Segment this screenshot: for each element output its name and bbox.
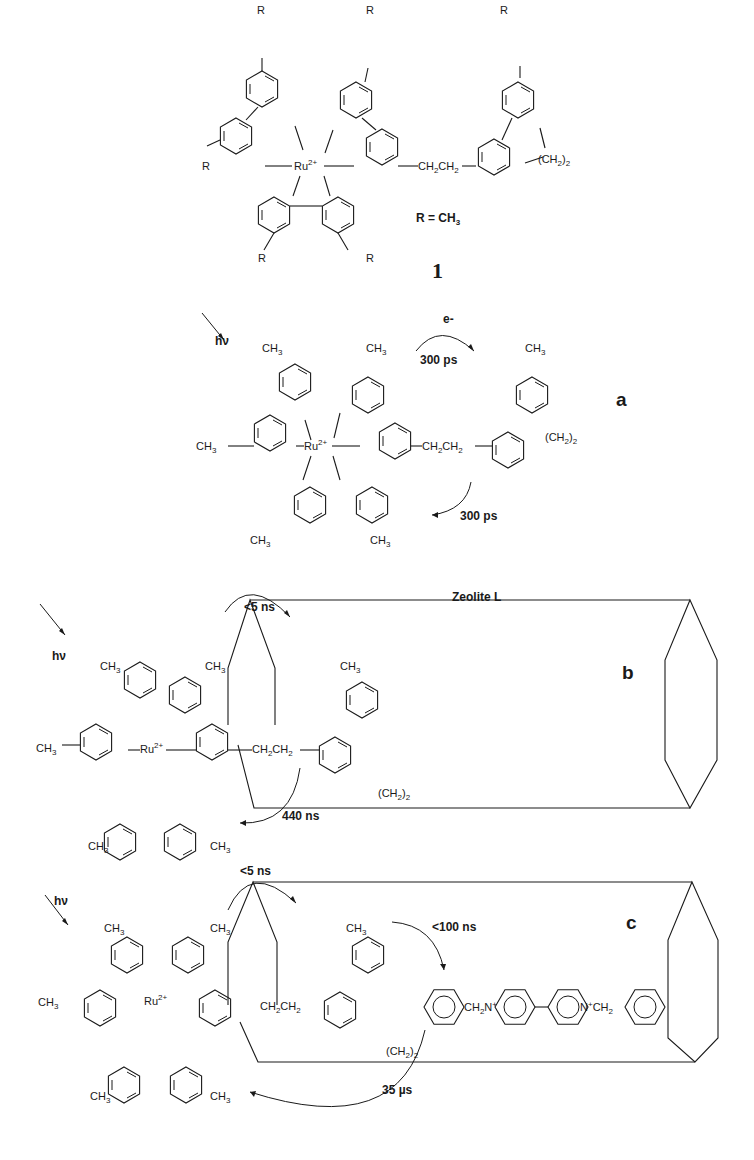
- hv-label: hν: [215, 334, 229, 348]
- svg-text:CH2CH2: CH2CH2: [418, 160, 459, 175]
- svg-text:(CH2)2: (CH2)2: [538, 153, 571, 168]
- svg-text:CH3: CH3: [104, 922, 125, 937]
- panel-b-labels: hν Zeolite L <5 ns 440 ns b CH3 CH3 CH3 …: [36, 590, 634, 855]
- r-label: R: [257, 4, 265, 16]
- svg-text:CH3: CH3: [205, 660, 226, 675]
- svg-text:(CH2)2: (CH2)2: [386, 1045, 419, 1060]
- svg-text:N+CH2: N+CH2: [580, 1000, 614, 1016]
- back-time: 35 µs: [382, 1083, 413, 1097]
- back-time: 300 ps: [460, 509, 498, 523]
- electron-label: e-: [443, 312, 454, 326]
- svg-text:Ru2+: Ru2+: [144, 993, 168, 1007]
- svg-text:(CH2)2: (CH2)2: [378, 787, 411, 802]
- back-time: 440 ns: [282, 809, 320, 823]
- zeolite-label: Zeolite L: [452, 590, 501, 604]
- svg-text:CH3: CH3: [210, 922, 231, 937]
- svg-text:CH3: CH3: [36, 742, 57, 757]
- r-label: R: [258, 252, 266, 264]
- diagram-canvas: R R R R R R Ru2+ CH2CH2 (CH2)2 R = CH3 1: [0, 0, 754, 1160]
- svg-text:CH3: CH3: [525, 342, 546, 357]
- svg-text:CH3: CH3: [250, 534, 271, 549]
- r-label: R: [202, 160, 210, 172]
- structure-1: [207, 58, 545, 250]
- hv-label: hν: [52, 649, 66, 663]
- svg-text:CH3: CH3: [210, 1090, 231, 1105]
- svg-text:CH3: CH3: [88, 840, 109, 855]
- svg-text:CH3: CH3: [196, 440, 217, 455]
- svg-text:CH2CH2: CH2CH2: [422, 440, 463, 455]
- svg-text:Ru2+: Ru2+: [140, 741, 164, 755]
- panel-label-a: a: [616, 389, 627, 410]
- r-label: R: [366, 4, 374, 16]
- transfer-time: <100 ns: [432, 920, 477, 934]
- svg-text:CH3: CH3: [366, 342, 387, 357]
- forward-time: <5 ns: [244, 600, 275, 614]
- svg-text:Ru2+: Ru2+: [304, 438, 328, 452]
- svg-text:CH2N+: CH2N+: [464, 1000, 497, 1016]
- hv-label: hν: [54, 894, 68, 908]
- compound-number: 1: [432, 258, 443, 283]
- panel-a-labels: hν e- 300 ps 300 ps a CH3 CH3 CH3 CH3 CH…: [196, 312, 627, 549]
- svg-text:CH3: CH3: [346, 922, 367, 937]
- svg-text:Ru2+: Ru2+: [294, 158, 318, 172]
- panel-b: [40, 595, 717, 860]
- svg-text:CH3: CH3: [210, 840, 231, 855]
- svg-text:CH3: CH3: [262, 342, 283, 357]
- svg-text:CH3: CH3: [38, 996, 59, 1011]
- svg-text:CH3: CH3: [340, 660, 361, 675]
- r-label: R: [500, 4, 508, 16]
- panel-label-c: c: [626, 912, 637, 933]
- r-label: R: [366, 252, 374, 264]
- panel-label-b: b: [622, 662, 634, 683]
- svg-text:CH3: CH3: [370, 534, 391, 549]
- structure-1-labels: R R R R R R Ru2+ CH2CH2 (CH2)2 R = CH3 1: [202, 4, 571, 283]
- svg-text:CH3: CH3: [90, 1090, 111, 1105]
- forward-time: 300 ps: [420, 353, 458, 367]
- forward-time: <5 ns: [240, 864, 271, 878]
- svg-text:CH2CH2: CH2CH2: [252, 743, 293, 758]
- r-definition: R = CH3: [416, 211, 461, 227]
- svg-text:(CH2)2: (CH2)2: [545, 431, 578, 446]
- svg-text:CH2CH2: CH2CH2: [260, 1000, 301, 1015]
- svg-text:CH3: CH3: [100, 660, 121, 675]
